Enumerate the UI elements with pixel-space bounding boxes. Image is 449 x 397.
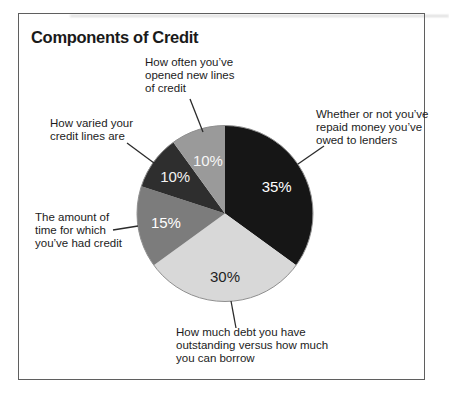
callout-line: How varied your (50, 117, 133, 130)
callout-time: The amount of time for which you’ve had … (35, 211, 122, 251)
pie-slice-pct-label: 10% (160, 168, 190, 185)
leader-line-repaid (298, 146, 324, 164)
callout-line: Whether or not you’ve (316, 108, 429, 121)
callout-debt: How much debt you have outstanding versu… (176, 326, 328, 366)
callout-line: opened new lines (145, 69, 235, 82)
callout-line: How often you’ve (145, 56, 235, 69)
pie-slice-pct-label: 15% (151, 214, 181, 231)
callout-new-lines: How often you’ve opened new lines of cre… (145, 56, 235, 96)
pie-slice-pct-label: 30% (210, 268, 240, 285)
callout-repaid: Whether or not you’ve repaid money you’v… (316, 108, 429, 148)
leader-line-varied (127, 143, 154, 163)
scanned-figure: Components of Credit 35%30%15%10%10% How… (0, 0, 449, 397)
callout-line: repaid money you’ve (316, 121, 429, 134)
leader-line-new-lines (190, 99, 203, 132)
callout-line: The amount of (35, 211, 122, 224)
callout-line: owed to lenders (316, 134, 429, 147)
pie-slice-pct-label: 35% (262, 178, 292, 195)
callout-line: time for which (35, 224, 122, 237)
callout-line: outstanding versus how much (176, 339, 328, 352)
callout-line: of credit (145, 82, 235, 95)
callout-line: you can borrow (176, 352, 328, 365)
callout-line: you’ve had credit (35, 237, 122, 250)
callout-line: credit lines are (50, 130, 133, 143)
callout-line: How much debt you have (176, 326, 328, 339)
leader-line-debt (231, 301, 236, 328)
callout-varied: How varied your credit lines are (50, 117, 133, 143)
pie-slice-pct-label: 10% (193, 152, 223, 169)
